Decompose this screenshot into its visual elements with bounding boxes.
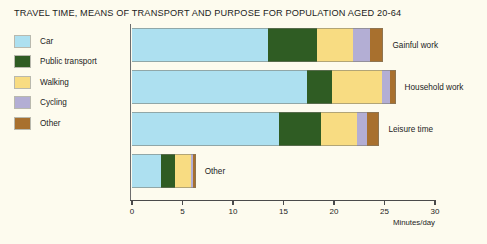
x-axis-tick-label: 5 xyxy=(180,207,184,216)
x-axis-tick-label: 20 xyxy=(330,207,339,216)
stacked-bar[interactable] xyxy=(132,154,196,188)
bar-row: Gainful work xyxy=(132,28,435,62)
legend-swatch-icon xyxy=(14,35,31,48)
legend-swatch-icon xyxy=(14,117,31,130)
x-axis-tick-label: 25 xyxy=(380,207,389,216)
bar-segment[interactable] xyxy=(132,28,268,62)
bar-segment[interactable] xyxy=(268,28,316,62)
stacked-bar[interactable] xyxy=(132,70,396,104)
stacked-bar[interactable] xyxy=(132,112,379,146)
bar-segment[interactable] xyxy=(193,154,196,188)
x-axis-tick-label: 0 xyxy=(130,207,134,216)
x-axis-tick-label: 10 xyxy=(229,207,238,216)
chart-legend: CarPublic transportWalkingCyclingOther xyxy=(14,31,124,134)
x-axis-tick xyxy=(333,200,334,205)
bar-label: Other xyxy=(205,167,225,176)
bar-label: Leisure time xyxy=(388,125,433,134)
legend-item[interactable]: Walking xyxy=(14,72,124,93)
legend-item-label: Other xyxy=(40,119,60,128)
legend-swatch-icon xyxy=(14,76,31,89)
x-axis-tick xyxy=(131,200,132,205)
bar-segment[interactable] xyxy=(132,154,161,188)
x-axis-tick xyxy=(182,200,183,205)
x-axis-tick xyxy=(283,200,284,205)
x-axis-title: Minutes/day xyxy=(393,218,435,227)
bar-segment[interactable] xyxy=(332,70,383,104)
stacked-bar[interactable] xyxy=(132,28,383,62)
bar-segment[interactable] xyxy=(279,112,320,146)
bar-segment[interactable] xyxy=(132,70,307,104)
legend-item-label: Public transport xyxy=(40,57,97,66)
legend-item-label: Car xyxy=(40,37,53,46)
bar-segment[interactable] xyxy=(367,112,379,146)
bar-segment[interactable] xyxy=(370,28,383,62)
x-axis-tick-label: 15 xyxy=(279,207,288,216)
bar-segment[interactable] xyxy=(382,70,389,104)
bar-segment[interactable] xyxy=(357,112,367,146)
bar-label: Household work xyxy=(405,83,464,92)
legend-item[interactable]: Cycling xyxy=(14,93,124,114)
x-axis-tick xyxy=(384,200,385,205)
legend-swatch-icon xyxy=(14,96,31,109)
legend-swatch-icon xyxy=(14,55,31,68)
bar-segment[interactable] xyxy=(175,154,190,188)
bar-row: Household work xyxy=(132,70,435,104)
x-axis-tick-label: 30 xyxy=(431,207,440,216)
legend-item-label: Cycling xyxy=(40,98,67,107)
x-axis-tick xyxy=(434,200,435,205)
legend-item[interactable]: Other xyxy=(14,113,124,134)
bar-row: Other xyxy=(132,154,435,188)
bar-segment[interactable] xyxy=(390,70,396,104)
legend-item[interactable]: Car xyxy=(14,31,124,52)
chart-title: TRAVEL TIME, MEANS OF TRANSPORT AND PURP… xyxy=(14,8,401,18)
bar-segment[interactable] xyxy=(161,154,175,188)
plot-area: 051015202530 Gainful workHousehold workL… xyxy=(132,24,435,200)
legend-item-label: Walking xyxy=(40,78,69,87)
bar-label: Gainful work xyxy=(392,41,438,50)
bar-segment[interactable] xyxy=(307,70,332,104)
bar-row: Leisure time xyxy=(132,112,435,146)
bar-segment[interactable] xyxy=(353,28,370,62)
legend-item[interactable]: Public transport xyxy=(14,52,124,73)
bar-segment[interactable] xyxy=(317,28,353,62)
bar-segment[interactable] xyxy=(132,112,279,146)
chart-screenshot: TRAVEL TIME, MEANS OF TRANSPORT AND PURP… xyxy=(0,0,487,244)
bar-segment[interactable] xyxy=(321,112,357,146)
x-axis-tick xyxy=(232,200,233,205)
